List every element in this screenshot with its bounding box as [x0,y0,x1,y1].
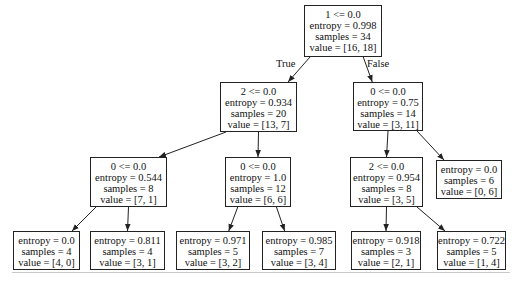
node-line: value = [3, 1] [91,257,164,268]
tree-node-n1: 2 <= 0.0entropy = 0.934samples = 20value… [220,82,297,132]
tree-node-n3: 0 <= 0.0entropy = 0.544samples = 8value … [90,157,167,207]
node-line: entropy = 0.918 [352,235,420,246]
node-line: value = [3, 4] [263,257,335,268]
node-line: samples = 5 [438,246,505,257]
node-line: samples = 8 [91,183,166,194]
node-line: samples = 4 [91,246,164,257]
node-line: samples = 3 [352,246,420,257]
node-line: 0 <= 0.0 [226,161,290,172]
node-line: entropy = 0.0 [14,235,79,246]
decision-tree-diagram: 1 <= 0.0entropy = 0.998samples = 34value… [0,0,520,283]
tree-edge [417,207,445,231]
tree-edge [229,207,238,231]
tree-node-n7: entropy = 0.0samples = 4value = [4, 0] [13,231,80,270]
node-line: samples = 14 [354,108,422,119]
tree-node-n9: entropy = 0.971samples = 5value = [3, 2] [176,231,250,270]
node-line: 2 <= 0.0 [351,161,422,172]
node-line: value = [3, 2] [177,257,249,268]
node-line: value = [0, 6] [437,186,501,197]
node-line: entropy = 0.544 [91,172,166,183]
tree-node-n5: 2 <= 0.0entropy = 0.954samples = 8value … [350,157,423,207]
node-line: samples = 5 [177,246,249,257]
node-line: entropy = 0.985 [263,235,335,246]
node-line: value = [13, 7] [221,119,296,130]
node-line: samples = 7 [263,246,335,257]
tree-edge [72,207,96,231]
node-line: samples = 34 [305,31,381,42]
edge-label-true: True [276,58,295,69]
node-line: value = [3, 11] [354,119,422,130]
node-line: 0 <= 0.0 [354,86,422,97]
node-line: entropy = 1.0 [226,172,290,183]
tree-node-n10: entropy = 0.985samples = 7value = [3, 4] [262,231,336,270]
node-line: entropy = 0.811 [91,235,164,246]
node-line: samples = 4 [14,246,79,257]
figure-caption [0,278,520,283]
node-line: value = [7, 1] [91,194,166,205]
tree-node-n4: 0 <= 0.0entropy = 1.0samples = 12value =… [225,157,291,207]
node-line: value = [2, 1] [352,257,420,268]
node-line: entropy = 0.75 [354,97,422,108]
caption-divider [12,272,510,273]
tree-node-n6: entropy = 0.0samples = 6value = [0, 6] [436,160,502,199]
tree-node-n0: 1 <= 0.0entropy = 0.998samples = 34value… [304,5,382,57]
node-line: entropy = 0.971 [177,235,249,246]
node-line: value = [1, 4] [438,257,505,268]
node-line: entropy = 0.934 [221,97,296,108]
edge-label-false: False [367,58,389,69]
tree-edge [417,131,444,160]
tree-edge [386,207,387,231]
tree-node-n2: 0 <= 0.0entropy = 0.75samples = 14value … [353,82,423,131]
node-line: samples = 20 [221,108,296,119]
node-line: value = [6, 6] [226,194,290,205]
node-line: entropy = 0.998 [305,20,381,31]
tree-edge [258,132,259,157]
node-line: value = [4, 0] [14,257,79,268]
node-line: value = [3, 5] [351,194,422,205]
node-line: entropy = 0.722 [438,235,505,246]
tree-edge [387,131,389,157]
tree-node-n11: entropy = 0.918samples = 3value = [2, 1] [351,231,421,270]
node-line: samples = 8 [351,183,422,194]
tree-node-n8: entropy = 0.811samples = 4value = [3, 1] [90,231,165,270]
node-line: value = [16, 18] [305,42,381,53]
node-line: entropy = 0.0 [437,164,501,175]
node-line: 0 <= 0.0 [91,161,166,172]
tree-node-n12: entropy = 0.722samples = 5value = [1, 4] [437,231,506,270]
node-line: entropy = 0.954 [351,172,422,183]
node-line: 2 <= 0.0 [221,86,296,97]
tree-edge [276,207,284,231]
node-line: samples = 12 [226,183,290,194]
node-line: 1 <= 0.0 [305,9,381,20]
node-line: samples = 6 [437,175,501,186]
tree-edge [128,207,129,231]
tree-edge [159,132,226,157]
